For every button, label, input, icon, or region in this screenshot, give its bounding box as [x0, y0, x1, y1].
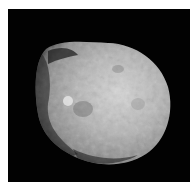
- moon-image: [8, 9, 190, 182]
- space-background: [8, 9, 190, 182]
